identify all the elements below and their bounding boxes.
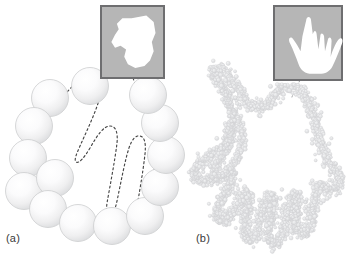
particle	[268, 84, 272, 88]
particle	[227, 185, 231, 189]
particle	[208, 148, 212, 152]
particle	[305, 198, 308, 201]
particle	[316, 104, 319, 107]
particle	[272, 197, 275, 200]
particle	[310, 141, 314, 145]
particle	[270, 225, 273, 228]
particle	[212, 172, 216, 176]
particle	[224, 78, 228, 82]
particle	[232, 85, 236, 89]
particle	[271, 101, 275, 105]
particle	[285, 214, 288, 217]
particle	[313, 214, 317, 218]
particle	[301, 99, 305, 103]
particle	[274, 226, 277, 229]
particle	[307, 91, 310, 94]
particle	[237, 212, 241, 216]
particle	[270, 235, 273, 238]
particle	[303, 94, 307, 98]
particle	[303, 103, 306, 106]
particle	[247, 205, 251, 209]
particle	[224, 150, 227, 153]
particle	[245, 189, 248, 192]
particle	[244, 195, 248, 199]
particle	[238, 192, 242, 196]
particle	[309, 182, 312, 185]
particle	[312, 223, 316, 227]
particle	[269, 192, 273, 196]
particle	[230, 206, 234, 210]
particle	[252, 219, 256, 223]
particle	[252, 245, 255, 248]
particle	[227, 192, 230, 195]
particle	[281, 222, 284, 225]
particle	[243, 223, 247, 227]
particle	[235, 183, 239, 187]
particle	[314, 159, 317, 162]
particle	[311, 129, 315, 133]
particle	[284, 238, 287, 241]
particle	[208, 214, 211, 217]
particle	[231, 185, 234, 188]
particle	[187, 171, 190, 174]
particle	[211, 59, 215, 63]
particle	[330, 137, 333, 140]
particle	[295, 217, 299, 221]
particle	[322, 164, 326, 168]
particle	[249, 208, 252, 211]
particle	[327, 142, 331, 146]
particle	[298, 199, 301, 202]
particle	[206, 173, 209, 176]
particle	[234, 177, 237, 180]
particle	[270, 96, 273, 99]
particle	[275, 214, 279, 218]
sphere	[94, 208, 131, 245]
particle	[313, 97, 316, 100]
particle	[235, 201, 239, 205]
particle	[275, 82, 279, 86]
particle	[322, 154, 326, 158]
panel-a-inset	[101, 6, 164, 78]
particle	[222, 192, 225, 195]
particle	[272, 209, 276, 213]
particle	[306, 229, 309, 232]
particle	[223, 198, 227, 202]
particle	[249, 223, 252, 226]
particle	[238, 87, 242, 91]
particle	[311, 186, 315, 190]
particle	[252, 200, 255, 203]
panel-b-label: (b)	[196, 232, 210, 244]
particle	[225, 221, 229, 225]
particle	[328, 178, 332, 182]
particle	[280, 188, 284, 192]
sphere	[142, 169, 179, 206]
particle	[221, 208, 224, 211]
particle	[327, 183, 330, 186]
particle	[221, 216, 224, 219]
particle	[300, 195, 304, 199]
figure-canvas	[0, 0, 354, 259]
sphere	[37, 160, 74, 197]
particle	[257, 219, 260, 222]
particle	[258, 114, 262, 118]
particle	[216, 203, 220, 207]
particle	[246, 108, 250, 112]
particle	[267, 208, 271, 212]
particle	[257, 198, 261, 202]
panel-a-label: (a)	[6, 232, 20, 244]
particle	[190, 174, 193, 177]
particle	[239, 178, 242, 181]
particle	[201, 162, 205, 166]
particle	[239, 97, 243, 101]
particle	[263, 197, 267, 201]
particle	[243, 97, 247, 101]
particle	[234, 226, 237, 229]
particle	[233, 96, 237, 100]
sphere	[60, 205, 97, 242]
particle	[294, 93, 297, 96]
particle	[233, 197, 236, 200]
particle	[255, 97, 258, 100]
particle	[268, 204, 272, 208]
particle	[278, 196, 282, 200]
particle	[220, 98, 224, 102]
